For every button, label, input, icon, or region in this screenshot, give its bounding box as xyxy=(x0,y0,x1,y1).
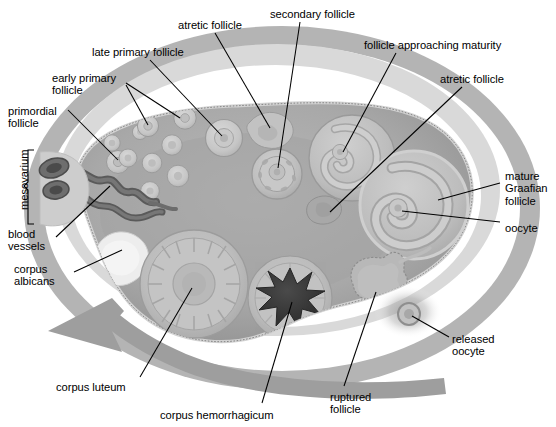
secondary-follicle xyxy=(252,149,302,199)
label-blood-vessels: blood vessels xyxy=(8,228,45,253)
ovary-diagram-canvas: primordial follicle early primary follic… xyxy=(0,0,556,427)
corpus-luteum xyxy=(140,230,248,338)
oocyte-structure xyxy=(389,199,407,217)
mature-graafian-follicle xyxy=(360,151,468,259)
atretic-follicle-right xyxy=(307,196,342,224)
label-follicle-approaching-maturity: follicle approaching maturity xyxy=(364,39,501,51)
label-primordial-follicle: primordial follicle xyxy=(8,105,57,130)
label-late-primary-follicle: late primary follicle xyxy=(92,46,184,58)
label-oocyte: oocyte xyxy=(505,222,538,234)
label-ruptured-follicle: ruptured follicle xyxy=(330,391,371,416)
label-corpus-albicans: corpus albicans xyxy=(14,263,55,288)
ovary-illustration xyxy=(0,0,556,427)
label-atretic-follicle-top: atretic follicle xyxy=(178,19,242,31)
label-atretic-follicle-right: atretic follicle xyxy=(440,73,504,85)
released-oocyte xyxy=(374,286,442,338)
label-secondary-follicle: secondary follicle xyxy=(270,8,355,20)
label-early-primary-follicle: early primary follicle xyxy=(52,72,116,97)
label-corpus-luteum: corpus luteum xyxy=(56,381,126,393)
label-released-oocyte: released oocyte xyxy=(452,333,495,358)
label-corpus-hemorrhagicum: corpus hemorrhagicum xyxy=(160,409,273,421)
label-mature-graafian-follicle: mature Graafian follicle xyxy=(505,170,548,207)
label-mesovarium: mesovarium xyxy=(18,150,30,210)
